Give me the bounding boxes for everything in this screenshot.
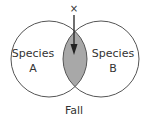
species-a-label: Species	[12, 47, 55, 60]
venn-diagram: Species A Species B × Fall	[0, 0, 145, 118]
species-b-letter: B	[109, 62, 117, 75]
caption-fall: Fall	[65, 104, 83, 117]
species-a-letter: A	[29, 62, 37, 75]
x-marker: ×	[70, 3, 78, 14]
species-b-label: Species	[92, 47, 135, 60]
